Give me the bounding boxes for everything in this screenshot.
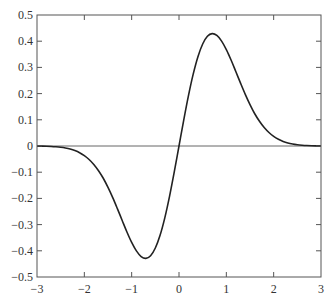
y-tick-label: 0.1 [18, 113, 33, 127]
x-tick-label: 0 [176, 282, 182, 296]
x-tick-label: 1 [223, 282, 229, 296]
y-tick-label: 0.4 [18, 34, 33, 48]
y-tick-label: −0.3 [11, 218, 33, 232]
line-chart: −3−2−10123 −0.5−0.4−0.3−0.2−0.100.10.20.… [0, 0, 334, 306]
x-tick-label: 2 [271, 282, 277, 296]
y-tick-label: −0.2 [11, 191, 33, 205]
x-tick-label: −2 [78, 282, 91, 296]
x-tick-label: −1 [125, 282, 138, 296]
y-tick-label: −0.5 [11, 270, 33, 284]
y-tick-label: 0 [27, 139, 33, 153]
y-tick-label: −0.4 [11, 244, 33, 258]
x-tick-label: 3 [318, 282, 324, 296]
y-tick-label: 0.3 [18, 60, 33, 74]
y-tick-label: 0.5 [18, 8, 33, 22]
x-tick-label: −3 [31, 282, 44, 296]
y-tick-label: 0.2 [18, 87, 33, 101]
y-tick-label: −0.1 [11, 165, 33, 179]
